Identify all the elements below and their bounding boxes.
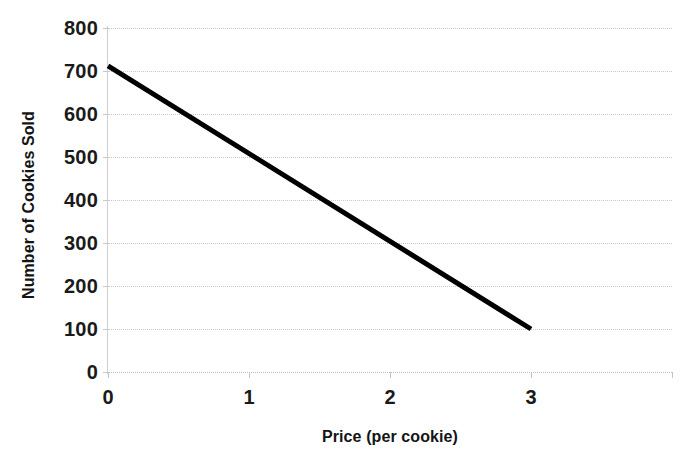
y-axis-tick-mark [103, 286, 109, 287]
y-axis-tick-mark [103, 28, 109, 29]
x-axis-tick-label: 0 [88, 386, 128, 409]
y-axis-tick-label: 0 [26, 361, 98, 384]
x-axis-tick-mark [249, 372, 250, 378]
x-axis-tick-label: 1 [229, 386, 269, 409]
line-chart: 0100200300400500600700800 0123 Number of… [0, 0, 688, 473]
y-axis-tick-mark [103, 372, 109, 373]
x-axis-tick-label: 2 [370, 386, 410, 409]
x-axis-tick-mark [672, 372, 673, 378]
plot-area [108, 28, 672, 372]
y-axis-tick-mark [103, 243, 109, 244]
y-axis-tick-label: 800 [26, 17, 98, 40]
x-axis-tick-mark [531, 372, 532, 378]
x-axis-title: Price (per cookie) [108, 428, 672, 446]
x-axis-tick-mark [390, 372, 391, 378]
y-axis-tick-mark [103, 200, 109, 201]
series-line [108, 66, 531, 329]
y-axis-tick-mark [103, 329, 109, 330]
x-axis-tick-label: 3 [511, 386, 551, 409]
y-axis-tick-label: 700 [26, 60, 98, 83]
y-axis-tick-mark [103, 71, 109, 72]
y-axis-title: Number of Cookies Sold [20, 90, 38, 320]
y-axis-tick-mark [103, 114, 109, 115]
y-axis-tick-label: 100 [26, 318, 98, 341]
y-axis-tick-mark [103, 157, 109, 158]
series-layer [108, 28, 672, 372]
